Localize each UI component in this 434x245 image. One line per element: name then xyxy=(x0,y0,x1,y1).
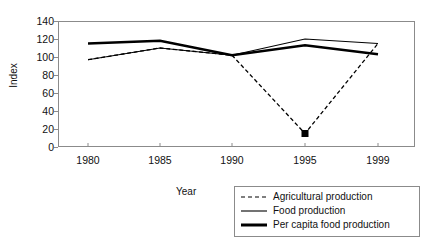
series-line-agricultural-production xyxy=(88,44,378,134)
thin-line-icon xyxy=(239,205,269,217)
legend-item-per-capita-food-production: Per capita food production xyxy=(239,218,415,232)
x-tick-label-1999: 1999 xyxy=(348,154,408,166)
x-tick-label-1980: 1980 xyxy=(58,154,118,166)
y-tick-label-0: 0 xyxy=(18,142,54,152)
y-axis-tick-labels: 140 120 100 80 60 40 20 0 xyxy=(18,0,54,170)
legend-label-per-capita-food-production: Per capita food production xyxy=(273,219,390,231)
y-tick-label-20: 20 xyxy=(18,124,54,134)
y-tick-label-60: 60 xyxy=(18,88,54,98)
x-axis-title: Year xyxy=(176,186,196,198)
y-tick-label-120: 120 xyxy=(18,34,54,44)
plot-series-svg xyxy=(58,21,415,147)
thick-line-icon xyxy=(239,219,269,231)
x-tick-label-1995: 1995 xyxy=(275,154,335,166)
y-tick-label-40: 40 xyxy=(18,106,54,116)
x-tick-marks xyxy=(88,143,378,147)
legend-label-agricultural-production: Agricultural production xyxy=(273,191,373,203)
y-axis-title: Index xyxy=(8,46,19,106)
legend-item-food-production: Food production xyxy=(239,204,415,218)
y-tick-label-100: 100 xyxy=(18,52,54,62)
legend-label-food-production: Food production xyxy=(273,205,345,217)
y-tick-mark-0 xyxy=(54,147,58,148)
x-axis-tick-labels: 1980 1985 1990 1995 1999 xyxy=(0,154,434,170)
chart-container: Index 140 120 100 80 60 40 20 0 xyxy=(0,0,434,245)
chart-legend: Agricultural production Food production … xyxy=(234,186,420,237)
series-marker-agricultural-1995 xyxy=(302,130,309,137)
legend-item-agricultural-production: Agricultural production xyxy=(239,190,415,204)
y-tick-label-80: 80 xyxy=(18,70,54,80)
x-tick-label-1990: 1990 xyxy=(202,154,262,166)
dashed-line-icon xyxy=(239,191,269,203)
y-tick-label-140: 140 xyxy=(18,16,54,26)
x-tick-label-1985: 1985 xyxy=(130,154,190,166)
